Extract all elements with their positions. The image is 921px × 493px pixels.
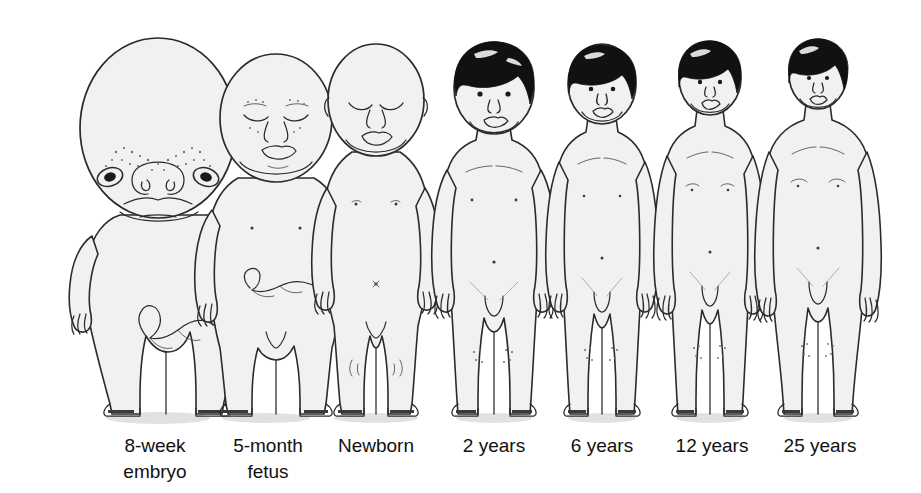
fetus-nipple-left — [251, 227, 254, 230]
child12-navel — [709, 251, 712, 254]
child2-nipple-right — [515, 199, 518, 202]
caption-newborn: Newborn — [338, 435, 414, 456]
caption-25-years: 25 years — [784, 435, 857, 456]
caption-embryo-8-week-line1: 8-week — [124, 435, 186, 456]
adult-toes-left — [782, 410, 800, 413]
child6-eye-right — [611, 87, 616, 92]
newborn-toes-right — [390, 410, 414, 413]
adult-nipple-right — [837, 185, 840, 188]
child12-eye-right — [718, 80, 722, 84]
growth-proportions-illustration: 8-week embryo 5-month fetus Newborn 2 ye… — [0, 0, 921, 493]
child6-navel — [601, 257, 604, 260]
child12-toes-left — [676, 410, 694, 413]
newborn-nipple-left — [355, 203, 358, 206]
fetus-head — [220, 54, 332, 182]
caption-6-years: 6 years — [571, 435, 633, 456]
child6-toes-left — [568, 410, 586, 413]
adult-toes-right — [836, 410, 854, 413]
adult-nipple-left — [797, 185, 800, 188]
caption-embryo-8-week-line2: embryo — [123, 461, 186, 482]
embryo-head — [80, 38, 236, 218]
child6-nipple-right — [619, 195, 622, 198]
newborn-toes-left — [338, 410, 362, 413]
embryo-toes-left — [108, 410, 134, 413]
child2-eye-left — [477, 91, 482, 96]
child2-toes-right — [512, 410, 532, 413]
newborn-nipple-right — [395, 203, 398, 206]
child2-toes-left — [456, 410, 476, 413]
child6-toes-right — [618, 410, 636, 413]
child2-eye-right — [505, 91, 510, 96]
child2-navel — [492, 260, 495, 263]
adult-eye-right — [825, 76, 829, 80]
child12-nipple-right — [727, 189, 730, 192]
caption-fetus-5-month-line2: fetus — [247, 461, 288, 482]
child6-nipple-left — [583, 195, 586, 198]
child2-nipple-left — [471, 199, 474, 202]
child12-nipple-left — [691, 189, 694, 192]
fetus-toes-right — [304, 410, 328, 413]
child6-eye-left — [589, 87, 594, 92]
caption-12-years: 12 years — [676, 435, 749, 456]
adult-eye-left — [807, 76, 811, 80]
caption-2-years: 2 years — [463, 435, 525, 456]
newborn-head — [328, 44, 424, 156]
child12-eye-left — [698, 80, 702, 84]
fetus-toes-left — [224, 410, 248, 413]
child12-toes-right — [726, 410, 744, 413]
fetus-nipple-right — [299, 227, 302, 230]
adult-navel — [817, 247, 820, 250]
growth-proportions-figure: 8-week embryo 5-month fetus Newborn 2 ye… — [0, 0, 921, 493]
caption-fetus-5-month-line1: 5-month — [233, 435, 303, 456]
